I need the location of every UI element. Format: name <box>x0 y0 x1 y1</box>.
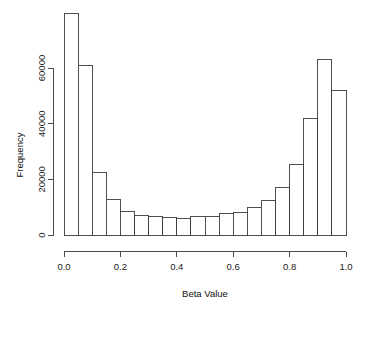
x-axis <box>64 252 346 258</box>
x-axis-tick-label: 0.2 <box>114 261 127 272</box>
histogram-bar <box>304 118 318 235</box>
histogram-bar <box>120 212 134 235</box>
histogram-bar <box>233 212 247 235</box>
y-axis-title: Frequency <box>14 132 25 177</box>
y-axis-tick-label: 60000 <box>36 55 47 81</box>
x-axis-title: Beta Value <box>182 288 228 299</box>
histogram-bar <box>92 172 106 235</box>
y-axis-ticks <box>48 68 54 235</box>
histogram-bar <box>247 208 261 235</box>
plot-canvas: 0200004000060000 0.00.20.40.60.81.0 Beta… <box>0 0 370 348</box>
histogram-bar <box>276 188 290 235</box>
histogram-bar <box>163 218 177 235</box>
histogram-bar <box>78 65 92 235</box>
x-axis-tick-label: 1.0 <box>339 261 352 272</box>
histogram-bar <box>205 216 219 235</box>
histogram-bars <box>64 14 346 235</box>
histogram-bar <box>64 14 78 235</box>
histogram-bar <box>332 90 346 235</box>
histogram-bar <box>177 218 191 235</box>
y-axis-tick-label: 0 <box>36 232 47 237</box>
y-axis <box>48 68 54 235</box>
x-axis-tick-label: 0.8 <box>283 261 296 272</box>
y-axis-tick-labels: 0200004000060000 <box>36 55 47 238</box>
histogram-bar <box>191 217 205 235</box>
x-axis-tick-labels: 0.00.20.40.60.81.0 <box>57 261 352 272</box>
x-axis-ticks <box>64 252 346 258</box>
histogram-bar <box>135 215 149 235</box>
y-axis-tick-label: 20000 <box>36 166 47 192</box>
x-axis-tick-label: 0.0 <box>57 261 70 272</box>
histogram-bar <box>261 200 275 235</box>
histogram-bar <box>290 164 304 235</box>
x-axis-tick-label: 0.4 <box>170 261 183 272</box>
histogram-bar <box>318 60 332 235</box>
histogram-bar <box>106 199 120 235</box>
x-axis-tick-label: 0.6 <box>227 261 240 272</box>
histogram-bar <box>149 216 163 235</box>
y-axis-tick-label: 40000 <box>36 110 47 136</box>
histogram-figure: 0200004000060000 0.00.20.40.60.81.0 Beta… <box>0 0 370 348</box>
histogram-bar <box>219 214 233 235</box>
